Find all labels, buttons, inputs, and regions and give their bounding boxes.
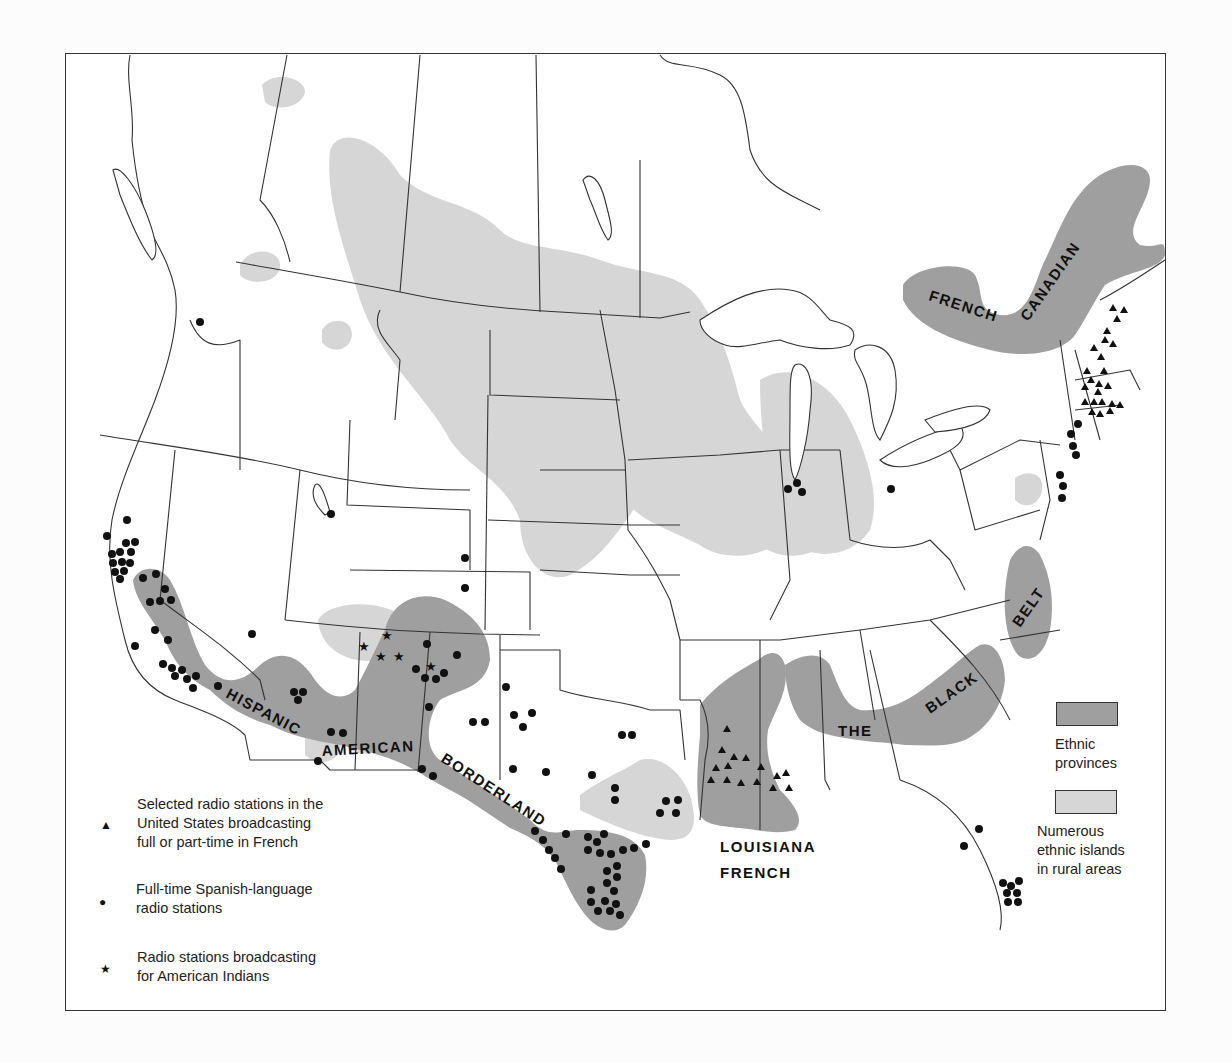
black-belt-province [785, 644, 1005, 745]
legend-indian-text: Radio stations broadcasting for American… [137, 948, 316, 986]
legend-spanish-text: Full-time Spanish-language radio station… [136, 880, 313, 918]
ethnic-provinces-swatch [1056, 702, 1118, 726]
svg-text:★: ★ [381, 628, 393, 643]
label-louisiana-french: FRENCH [720, 864, 792, 881]
french-canadian-province [903, 165, 1165, 354]
svg-text:★: ★ [393, 649, 405, 664]
ethnic-islands-swatch [1055, 790, 1117, 814]
label-louisiana: LOUISIANA [720, 838, 816, 855]
label-the: THE [838, 722, 873, 739]
svg-text:★: ★ [425, 659, 437, 674]
louisiana-french-province [697, 653, 799, 832]
triangle-icon: ▲ [100, 818, 112, 832]
star-icon: ★ [100, 962, 111, 976]
legend-provinces-text: Ethnic provinces [1055, 735, 1117, 773]
svg-text:★: ★ [358, 639, 370, 654]
legend-french-text: Selected radio stations in the United St… [137, 795, 323, 852]
legend-islands-text: Numerous ethnic islands in rural areas [1037, 822, 1125, 879]
circle-icon: ● [99, 895, 106, 909]
svg-text:★: ★ [375, 649, 387, 664]
